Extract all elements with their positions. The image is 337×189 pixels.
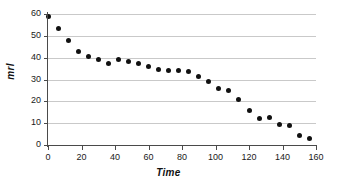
plot-area: [48, 14, 316, 145]
y-axis-tick-label: 10: [10, 117, 41, 128]
data-point: [267, 115, 272, 120]
data-point: [156, 67, 161, 72]
x-axis-tick: [115, 146, 116, 150]
y-axis-tick: [44, 14, 48, 15]
data-point: [247, 108, 252, 113]
y-axis-tick: [44, 36, 48, 37]
data-point: [76, 49, 81, 54]
gridline-y: [48, 123, 316, 124]
gridline-y: [48, 101, 316, 102]
y-axis-tick-label: 60: [10, 8, 41, 19]
gridline-y: [48, 14, 316, 15]
data-point: [196, 74, 201, 79]
x-axis-tick: [249, 146, 250, 150]
data-point: [287, 123, 292, 128]
data-point: [216, 86, 221, 91]
x-axis-tick: [182, 146, 183, 150]
data-point: [136, 61, 141, 66]
chart-container: 0102030405060020406080100120140160 Time …: [0, 0, 337, 189]
x-axis-tick-label: 80: [167, 152, 197, 163]
x-axis-tick-label: 60: [134, 152, 164, 163]
data-point: [166, 68, 171, 73]
y-axis-title: mrl: [5, 52, 16, 92]
x-axis-tick-label: 160: [301, 152, 331, 163]
data-point: [176, 68, 181, 73]
x-axis-tick: [216, 146, 217, 150]
data-point: [186, 69, 191, 74]
data-point: [307, 136, 312, 141]
y-axis-tick-label: 20: [10, 95, 41, 106]
x-axis-tick: [283, 146, 284, 150]
x-axis-tick-label: 120: [234, 152, 264, 163]
data-point: [116, 57, 121, 62]
y-axis-tick: [44, 80, 48, 81]
data-point: [106, 61, 111, 66]
data-point: [56, 26, 61, 31]
gridline-y: [48, 80, 316, 81]
x-axis-tick-label: 140: [268, 152, 298, 163]
y-axis-tick: [44, 101, 48, 102]
data-point: [226, 88, 231, 93]
data-point: [206, 79, 211, 84]
x-axis-tick: [82, 146, 83, 150]
data-point: [126, 59, 131, 64]
data-point: [297, 133, 302, 138]
data-point: [146, 64, 151, 69]
x-axis-tick: [48, 146, 49, 150]
y-axis-tick: [44, 58, 48, 59]
x-axis-tick-label: 100: [201, 152, 231, 163]
x-axis-tick-label: 20: [67, 152, 97, 163]
data-point: [66, 38, 71, 43]
y-axis-tick-label: 50: [10, 30, 41, 41]
x-axis-tick: [149, 146, 150, 150]
data-point: [277, 122, 282, 127]
x-axis-tick: [316, 146, 317, 150]
data-point: [96, 57, 101, 62]
x-axis-title: Time: [0, 167, 337, 178]
x-axis-tick-label: 40: [100, 152, 130, 163]
gridline-y: [48, 36, 316, 37]
y-axis-tick: [44, 123, 48, 124]
y-axis-tick-label: 0: [10, 139, 41, 150]
data-point: [257, 116, 262, 121]
x-axis-tick-label: 0: [33, 152, 63, 163]
data-point: [86, 54, 91, 59]
